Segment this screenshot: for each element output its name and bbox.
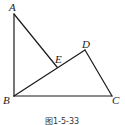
point-label-d: D: [81, 38, 90, 50]
point-label-e: E: [54, 53, 62, 65]
segment-ae: [14, 14, 57, 67]
point-label-c: C: [112, 94, 120, 106]
point-label-b: B: [3, 94, 10, 106]
geometry-figure: A B C D E 图1-5-33: [0, 0, 125, 125]
segment-cd: [85, 50, 112, 96]
point-label-a: A: [8, 1, 16, 13]
figure-caption: 图1-5-33: [45, 117, 79, 125]
